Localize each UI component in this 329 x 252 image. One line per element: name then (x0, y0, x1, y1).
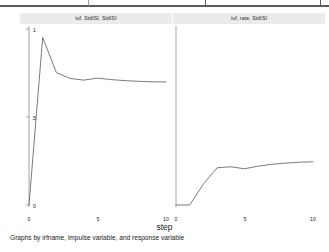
plot-svg-right (173, 24, 325, 207)
top-divider-rule (0, 5, 329, 7)
panel-iuf-stdisi-stdisi: iuf, StdISI, StdISI 1 .5 0 0 5 10 (20, 13, 172, 207)
irf-curve-left (29, 37, 166, 205)
x-axis-title: step (0, 222, 329, 232)
panel-title-left: iuf, StdISI, StdISI (20, 13, 172, 24)
y-tick-label-0: 0 (22, 203, 36, 209)
y-tick-label-05: .5 (22, 115, 36, 121)
irf-curve-right (176, 162, 313, 205)
top-tick-middle (205, 0, 206, 6)
top-tick-right (320, 0, 321, 6)
irf-graph-figure: iuf, StdISI, StdISI 1 .5 0 0 5 10 (0, 10, 329, 252)
plot-area-right (173, 24, 325, 207)
top-tick-left (88, 0, 89, 6)
window-top-chrome (0, 0, 329, 10)
figure-caption: Graphs by irfname, impulse variable, and… (10, 234, 184, 241)
panel-iuf-rate-stdisi: iuf, rate, StdISI 0 5 10 (173, 13, 325, 207)
panel-title-right: iuf, rate, StdISI (173, 13, 325, 24)
plot-svg-left (20, 24, 172, 207)
plot-area-left (20, 24, 172, 207)
y-tick-label-1: 1 (22, 27, 36, 33)
